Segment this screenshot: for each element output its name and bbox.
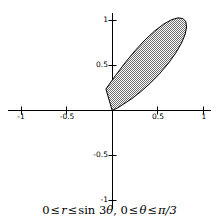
polar-petal-figure: -1 -0.5 0.5 1 1 0.5 -0.5 -1 0≤r≤sin 3θ, … bbox=[0, 0, 219, 219]
y-tick-label-1: 1 bbox=[103, 16, 108, 24]
x-tick-label--0.5: -0.5 bbox=[60, 113, 75, 121]
figure-caption: 0≤r≤sin 3θ, 0≤θ≤π/3 bbox=[0, 203, 219, 217]
y-tick-label-0.5: 0.5 bbox=[96, 61, 108, 69]
caption-zero-b: 0 bbox=[121, 203, 128, 217]
petal-region-shaded bbox=[106, 18, 187, 110]
caption-pi-over-three: π/3 bbox=[158, 203, 177, 217]
y-tick-label--0.5: -0.5 bbox=[93, 151, 108, 159]
caption-rel-a: ≤ bbox=[50, 203, 62, 217]
x-tick-label-0.5: 0.5 bbox=[152, 113, 164, 121]
caption-sin: sin bbox=[78, 203, 95, 217]
caption-rel-c: ≤ bbox=[128, 203, 140, 217]
caption-zero-a: 0 bbox=[42, 203, 49, 217]
x-tick-label-1: 1 bbox=[202, 113, 207, 121]
caption-rel-b: ≤ bbox=[67, 203, 79, 217]
plot-canvas bbox=[0, 0, 219, 219]
caption-r: r bbox=[61, 203, 67, 217]
x-tick-label--1: -1 bbox=[17, 113, 24, 121]
caption-rel-d: ≤ bbox=[146, 203, 158, 217]
